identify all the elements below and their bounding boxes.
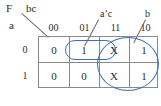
column-variable-label: bc (26, 3, 36, 14)
column-header-10: 10 (130, 23, 161, 33)
row-header-1: 1 (18, 71, 32, 81)
group-label-a-prime-c: a’c (100, 9, 112, 19)
row-header-0: 0 (18, 45, 32, 55)
cell-a1-bc00: 0 (39, 63, 69, 89)
cell-a1-bc01: 0 (69, 63, 99, 89)
function-label: F (6, 3, 12, 14)
group-label-b: b (145, 9, 150, 19)
column-header-00: 00 (38, 23, 69, 33)
karnaugh-map-figure: F bc a 00 01 11 10 0 1 a’c b 0 1 X 1 0 0… (0, 0, 161, 106)
group-loop-b (97, 37, 159, 91)
row-variable-label: a (9, 20, 14, 31)
column-header-11: 11 (100, 23, 131, 33)
